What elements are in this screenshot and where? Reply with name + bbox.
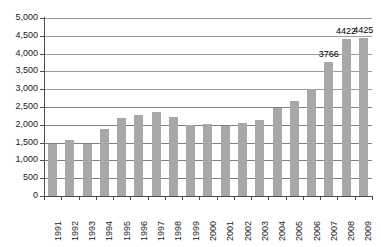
x-axis-tick-label: 2002	[234, 201, 251, 245]
y-axis-tick	[40, 196, 45, 197]
x-axis-tick	[113, 196, 114, 200]
x-axis-tick	[234, 196, 235, 200]
y-axis-tick-label: 2,500	[2, 102, 38, 111]
x-axis-tick	[130, 196, 131, 200]
y-axis-tick-label: 4,000	[2, 49, 38, 58]
x-axis-tick-label: 1993	[79, 201, 96, 245]
x-axis-tick-label: 1994	[96, 201, 113, 245]
x-axis-tick	[61, 196, 62, 200]
data-value-label: 4425	[346, 26, 380, 35]
x-axis-tick-label: 1996	[130, 201, 147, 245]
y-axis-tick-label: 500	[2, 173, 38, 182]
x-axis-tick-label: 2009	[355, 201, 372, 245]
y-axis-tick	[40, 178, 45, 179]
y-axis-tick	[40, 107, 45, 108]
x-axis-tick	[303, 196, 304, 200]
x-axis-tick	[251, 196, 252, 200]
x-axis-tick	[148, 196, 149, 200]
x-axis-tick-label: 2004	[268, 201, 285, 245]
x-axis-tick-label: 2003	[251, 201, 268, 245]
x-axis-tick	[96, 196, 97, 200]
data-value-label: 3766	[312, 50, 346, 59]
x-axis-tick	[165, 196, 166, 200]
x-axis-tick-label: 2008	[337, 201, 354, 245]
bar-chart: 5,0004,5004,0003,5003,0002,5002,0001,500…	[0, 0, 381, 247]
y-axis-tick	[40, 71, 45, 72]
y-axis-tick	[40, 18, 45, 19]
x-axis-tick-label: 1992	[61, 201, 78, 245]
y-axis-labels: 5,0004,5004,0003,5003,0002,5002,0001,500…	[0, 0, 38, 247]
x-axis-tick-label: 2007	[320, 201, 337, 245]
data-value-labels: 376644224425	[44, 18, 372, 196]
x-axis-tick-label: 2006	[303, 201, 320, 245]
x-axis-tick	[268, 196, 269, 200]
y-axis-tick	[40, 54, 45, 55]
x-axis-tick	[199, 196, 200, 200]
x-axis-tick	[286, 196, 287, 200]
y-axis-tick-label: 3,500	[2, 66, 38, 75]
y-axis-tick	[40, 36, 45, 37]
y-axis-tick-label: 3,000	[2, 84, 38, 93]
y-axis-tick-label: 5,000	[2, 13, 38, 22]
x-axis-tick-label: 1998	[165, 201, 182, 245]
y-axis-tick	[40, 143, 45, 144]
x-axis-tick	[355, 196, 356, 200]
x-axis-tick	[182, 196, 183, 200]
x-axis-tick	[79, 196, 80, 200]
x-axis-tick	[337, 196, 338, 200]
x-axis-tick-label: 2000	[199, 201, 216, 245]
y-axis-tick	[40, 89, 45, 90]
y-axis-tick-label: 1,500	[2, 138, 38, 147]
y-axis-tick-label: 1,000	[2, 155, 38, 164]
x-axis-tick-label: 1995	[113, 201, 130, 245]
y-axis-tick	[40, 125, 45, 126]
x-axis-tick	[320, 196, 321, 200]
x-axis-tick-label: 1997	[148, 201, 165, 245]
x-axis-tick-label: 2001	[217, 201, 234, 245]
x-axis-tick-label: 2005	[286, 201, 303, 245]
x-axis-tick-label: 1991	[44, 201, 61, 245]
x-axis-tick-label: 1999	[182, 201, 199, 245]
y-axis-tick	[40, 160, 45, 161]
y-axis-tick-label: 4,500	[2, 31, 38, 40]
y-axis-tick-label: 2,000	[2, 120, 38, 129]
y-axis-tick-label: 0	[2, 191, 38, 200]
x-axis-labels: 1991199219931994199519961997199819992000…	[44, 201, 373, 247]
x-axis-tick	[372, 196, 373, 200]
x-axis-tick	[217, 196, 218, 200]
